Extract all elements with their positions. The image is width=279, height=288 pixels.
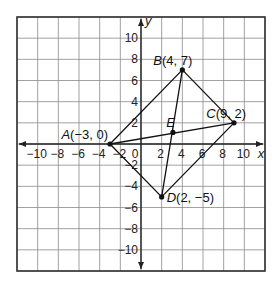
y-tick-label: 6: [131, 74, 138, 88]
y-axis-label: y: [144, 13, 153, 28]
coordinate-plane: −10−8−6−4−20246810108642−2−4−6−8−10 A(−3…: [0, 0, 279, 288]
y-tick-label: −8: [124, 222, 138, 236]
y-axis-arrow-down-icon: [138, 262, 144, 269]
y-axis-arrow-up-icon: [138, 19, 144, 26]
point-label-C: C(9, 2): [206, 106, 246, 121]
y-tick-label: −10: [118, 243, 139, 257]
point-C: [231, 120, 236, 125]
point-A: [107, 141, 112, 146]
x-tick-label: −4: [92, 147, 106, 161]
point-label-B: B(4, 7): [153, 53, 192, 68]
x-axis-arrow-left-icon: [19, 141, 26, 147]
axes: [19, 19, 263, 269]
point-E: [170, 130, 175, 135]
x-tick-label: 4: [178, 147, 185, 161]
x-axis-label: x: [257, 146, 265, 161]
x-tick-label: 8: [219, 147, 226, 161]
y-tick-label: 8: [131, 52, 138, 66]
x-tick-label: 10: [237, 147, 251, 161]
x-tick-label: 6: [199, 147, 206, 161]
point-label-D: D(2, −5): [167, 190, 214, 205]
point-B: [180, 67, 185, 72]
y-tick-label: −6: [124, 201, 138, 215]
points: A(−3, 0)B(4, 7)C(9, 2)D(2, −5)E: [60, 53, 246, 205]
y-tick-label: 4: [131, 95, 138, 109]
x-tick-label: 2: [157, 147, 164, 161]
point-label-A: A(−3, 0): [60, 127, 108, 142]
point-D: [159, 194, 164, 199]
point-label-E: E: [166, 115, 175, 130]
x-tick-label: −10: [26, 147, 47, 161]
x-tick-label: −6: [71, 147, 85, 161]
x-tick-label: −8: [50, 147, 64, 161]
y-tick-label: 10: [125, 31, 139, 45]
y-tick-label: −4: [124, 179, 138, 193]
